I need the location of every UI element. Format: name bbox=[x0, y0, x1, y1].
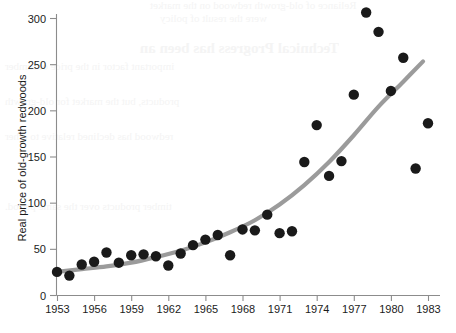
scatter-point bbox=[287, 226, 297, 236]
scatter-point bbox=[373, 27, 383, 37]
x-tick-label: 1959 bbox=[119, 303, 143, 315]
x-tick-label: 1968 bbox=[231, 303, 255, 315]
y-tick-label: 250 bbox=[28, 59, 46, 71]
x-tick-label: 1965 bbox=[194, 303, 218, 315]
y-axis-title: Real price of old-growth redwoods bbox=[16, 74, 28, 241]
scatter-point bbox=[349, 89, 359, 99]
scatter-point bbox=[386, 86, 396, 96]
x-tick-label: 1953 bbox=[45, 303, 69, 315]
y-axis-tick-labels: 050100150200250300 bbox=[28, 13, 46, 302]
scatter-point bbox=[64, 270, 74, 280]
y-tick-label: 0 bbox=[40, 290, 46, 302]
scatter-point bbox=[114, 257, 124, 267]
scatter-point bbox=[312, 120, 322, 130]
scatter-point bbox=[336, 156, 346, 166]
y-tick-label: 50 bbox=[34, 243, 46, 255]
x-tick-label: 1983 bbox=[416, 303, 440, 315]
y-axis-tick-marks bbox=[50, 19, 57, 296]
x-tick-label: 1956 bbox=[82, 303, 106, 315]
x-tick-label: 1962 bbox=[157, 303, 181, 315]
y-tick-label: 300 bbox=[28, 13, 46, 25]
x-tick-label: 1980 bbox=[379, 303, 403, 315]
scatter-points-group bbox=[52, 7, 433, 281]
y-tick-label: 150 bbox=[28, 151, 46, 163]
scatter-point bbox=[262, 209, 272, 219]
x-tick-label: 1971 bbox=[268, 303, 292, 315]
chart-figure: Reliance of old-growth redwood on the ma… bbox=[0, 0, 456, 333]
scatter-point bbox=[52, 267, 62, 277]
scatter-plot-svg: 050100150200250300 Real price of old-gro… bbox=[0, 0, 456, 333]
scatter-point bbox=[200, 234, 210, 244]
scatter-point bbox=[423, 118, 433, 128]
y-axis: 050100150200250300 Real price of old-gro… bbox=[16, 13, 57, 302]
scatter-point bbox=[101, 247, 111, 257]
exponential-fit-curve bbox=[57, 61, 423, 272]
scatter-point bbox=[361, 7, 371, 17]
scatter-point bbox=[138, 249, 148, 259]
x-tick-label: 1977 bbox=[342, 303, 366, 315]
scatter-point bbox=[163, 260, 173, 270]
x-axis: 1953195619591962196519681971197419771980… bbox=[45, 296, 440, 316]
x-axis-tick-labels: 1953195619591962196519681971197419771980… bbox=[45, 303, 440, 315]
scatter-point bbox=[77, 259, 87, 269]
scatter-point bbox=[299, 157, 309, 167]
x-axis-tick-marks bbox=[58, 296, 429, 302]
scatter-point bbox=[175, 248, 185, 258]
scatter-point bbox=[89, 257, 99, 267]
y-tick-label: 100 bbox=[28, 197, 46, 209]
scatter-point bbox=[274, 228, 284, 238]
scatter-point bbox=[398, 53, 408, 63]
scatter-point bbox=[188, 240, 198, 250]
x-tick-label: 1974 bbox=[305, 303, 329, 315]
scatter-point bbox=[126, 250, 136, 260]
scatter-point bbox=[237, 224, 247, 234]
scatter-point bbox=[250, 225, 260, 235]
y-tick-label: 200 bbox=[28, 105, 46, 117]
scatter-point bbox=[213, 230, 223, 240]
scatter-point bbox=[225, 250, 235, 260]
scatter-point bbox=[410, 163, 420, 173]
scatter-point bbox=[324, 171, 334, 181]
scatter-point bbox=[151, 251, 161, 261]
